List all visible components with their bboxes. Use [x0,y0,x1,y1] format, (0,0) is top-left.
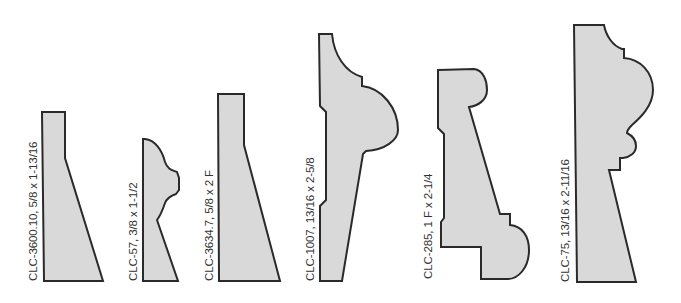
profile-label-clc-75: CLC-75, 13/16 x 2-11/16 [559,159,571,282]
profile-shape-clc-75 [574,25,653,282]
profile-label-clc-3634-7: CLC-3634.7, 5/8 x 2 F [203,170,215,281]
profile-clc-1007: CLC-1007, 13/16 x 2-5/8 [304,34,398,281]
profile-label-clc-285: CLC-285, 1 F x 2-1/4 [422,173,434,279]
profile-label-clc-1007: CLC-1007, 13/16 x 2-5/8 [304,157,316,281]
molding-profiles-diagram: CLC-3600.10, 5/8 x 1-13/16 CLC-57, 3/8 x… [0,0,681,303]
profile-label-clc-3600-10: CLC-3600.10, 5/8 x 1-13/16 [27,142,39,281]
profile-shape-clc-3600-10 [42,112,103,281]
profile-clc-3634-7: CLC-3634.7, 5/8 x 2 F [203,94,280,281]
profile-clc-3600-10: CLC-3600.10, 5/8 x 1-13/16 [27,112,103,281]
profile-clc-285: CLC-285, 1 F x 2-1/4 [422,69,529,279]
profile-shape-clc-3634-7 [218,94,280,281]
profile-clc-57: CLC-57, 3/8 x 1-1/2 [127,139,179,281]
profile-clc-75: CLC-75, 13/16 x 2-11/16 [559,25,653,282]
profile-shape-clc-57 [143,139,179,281]
profile-shape-clc-285 [438,69,529,279]
profile-shape-clc-1007 [319,34,398,281]
profile-label-clc-57: CLC-57, 3/8 x 1-1/2 [127,183,139,281]
